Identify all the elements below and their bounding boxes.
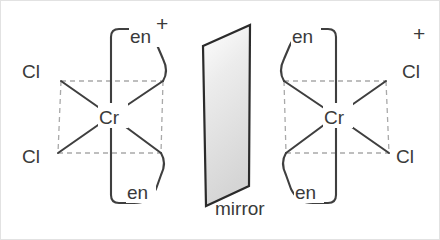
mirror-plane-group: mirror <box>203 25 265 219</box>
right-ligand-top-label: en <box>292 26 313 47</box>
right-charge-label: + <box>413 22 425 45</box>
left-metal-label: Cr <box>99 107 120 128</box>
right-dashed-edge-right <box>386 81 389 153</box>
left-chlorine-top-label: Cl <box>22 61 40 82</box>
left-ligand-bottom-label: en <box>127 182 148 203</box>
mirror-label: mirror <box>215 198 265 219</box>
right-dashed-edge-left <box>284 81 286 153</box>
left-dashed-edge-left <box>58 81 61 153</box>
left-ligand-top-label: en <box>130 26 151 47</box>
mirror-plane <box>203 25 250 206</box>
right-chlorine-bottom-label: Cl <box>396 146 414 167</box>
structure-canvas: Cl Cl Cr en en + mirror <box>1 1 440 240</box>
left-chlorine-bottom-label: Cl <box>22 146 40 167</box>
left-charge-label: + <box>156 12 168 35</box>
right-ligand-bottom-label: en <box>295 182 316 203</box>
right-metal-label: Cr <box>324 107 345 128</box>
right-chlorine-top-label: Cl <box>402 61 420 82</box>
left-complex-group: Cl Cl Cr en en + <box>21 12 168 203</box>
left-dashed-edge-right <box>161 81 163 153</box>
chemistry-figure: Cl Cl Cr en en + mirror <box>0 0 440 240</box>
right-complex-group: Cl Cl Cr en en + <box>281 22 433 203</box>
